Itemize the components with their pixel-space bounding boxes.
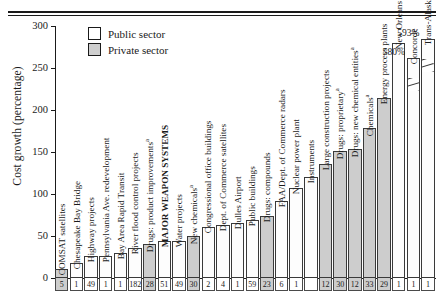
bar-category-label: MAJOR WEAPON SYSTEMS — [160, 125, 169, 247]
sample-count-cell: 1 — [231, 278, 244, 291]
bar-category-label: Chesapeake Bay Bridge — [72, 181, 81, 269]
sample-count-cell: 1 — [407, 278, 420, 291]
bar — [246, 220, 259, 278]
sample-count-row: 514911182285149302415923611230123329111 — [55, 278, 436, 291]
bar-category-label: New chemicalsa — [188, 185, 199, 244]
sample-count-cell: 49 — [84, 278, 97, 291]
axis-break-icon — [422, 59, 433, 72]
bar — [319, 164, 332, 278]
sample-count-cell: 33 — [363, 278, 376, 291]
sample-count-cell: 49 — [172, 278, 185, 291]
bar — [377, 98, 390, 278]
bar-category-label: COMSAT satellites — [58, 203, 67, 275]
sample-count-cell: 1 — [289, 278, 302, 291]
sample-count-cell: 29 — [377, 278, 390, 291]
bar-category-label: Chemicalsa — [363, 95, 374, 137]
bar — [202, 227, 215, 278]
y-tick-label: 50 — [22, 231, 48, 242]
sample-count-cell: 1 — [392, 278, 405, 291]
bar-category-label: Trans-Alaska Pipeline — [424, 0, 433, 45]
bar-value-label: 580% — [383, 47, 405, 57]
sample-count-cell: 1 — [421, 278, 434, 291]
y-tick-label: 300 — [22, 21, 48, 32]
bar — [407, 58, 420, 278]
footnote-marker: a — [348, 47, 355, 50]
bar — [304, 177, 317, 278]
sample-count-cell: 51 — [158, 278, 171, 291]
sample-count-cell: 30 — [187, 278, 200, 291]
sample-count-cell: 1 — [70, 278, 83, 291]
bar — [421, 39, 434, 278]
bar-category-label: Water projects — [175, 194, 184, 247]
sample-count-cell: 5 — [55, 278, 68, 291]
top-rule — [8, 11, 436, 13]
sample-count-cell: 4 — [216, 278, 229, 291]
bar-category-label: New Orleans Superdome — [395, 0, 404, 49]
bar-category-label: Dulles Airport — [234, 176, 243, 229]
bar-category-label: Energy process plants — [380, 24, 389, 104]
bar-category-label: River flood control projects — [131, 152, 140, 254]
sample-count-cell: 23 — [260, 278, 273, 291]
chart-figure: Cost growth (percentage) 050100150200250… — [0, 0, 443, 307]
bar-category-label: Instruments — [307, 140, 316, 183]
sample-count-cell: 6 — [275, 278, 288, 291]
bar — [333, 151, 346, 278]
axis-break-icon — [408, 78, 419, 91]
bar-category-label: Drugs: compounds — [263, 152, 272, 222]
bar-category-label: Drugs: product improvementsa — [144, 139, 155, 252]
bar-category-label: Drugs: new chemical entitiesa — [349, 47, 360, 157]
sample-count-cell: 2 — [202, 278, 215, 291]
sample-count-cell: 28 — [143, 278, 156, 291]
bar — [260, 216, 273, 278]
sample-count-cell — [304, 278, 317, 291]
bar-category-label: Pennsylvania Ave. redevelopment — [102, 138, 111, 263]
bar — [231, 223, 244, 278]
sample-count-cell: 1 — [99, 278, 112, 291]
bar-category-label: Highway projects — [87, 197, 96, 262]
bar-value-label: 593% — [397, 28, 419, 38]
footnote-marker: a — [333, 88, 340, 91]
sample-count-cell: 12 — [348, 278, 361, 291]
sample-count-cell: 1 — [114, 278, 127, 291]
y-tick-label: 0 — [22, 273, 48, 284]
bar-category-label: Nuclear power plant — [292, 119, 301, 194]
footnote-marker: a — [187, 185, 194, 188]
sample-count-cell: 30 — [333, 278, 346, 291]
bar-category-label: Public buildings — [248, 166, 257, 226]
top-rule-thin — [8, 15, 436, 16]
footnote-marker: a — [362, 95, 369, 98]
bar-category-label: Congressional office buildings — [204, 120, 213, 233]
y-tick-label: 100 — [22, 189, 48, 200]
plot-area: COMSAT satellitesChesapeake Bay BridgeHi… — [55, 26, 436, 278]
bar-category-label: FAA/Dept. of Commerce radars — [278, 89, 287, 207]
bar — [275, 201, 288, 278]
sample-count-cell: 182 — [128, 278, 141, 291]
bar — [348, 149, 361, 278]
bar — [363, 128, 376, 278]
bar — [392, 43, 405, 278]
bar-category-label: Drugs: proprietarya — [334, 88, 345, 159]
bar-category-label: Dept. of Commerce satellites — [219, 124, 228, 231]
bar — [289, 188, 302, 278]
y-tick-label: 150 — [22, 147, 48, 158]
bar-category-label: Bay Area Rapid Transit — [116, 172, 125, 259]
y-tick-label: 250 — [22, 63, 48, 74]
bar-category-label: Large construction projects — [322, 70, 331, 170]
sample-count-cell: 12 — [319, 278, 332, 291]
bar — [216, 225, 229, 278]
footnote-marker: a — [143, 139, 150, 142]
sample-count-cell: 59 — [246, 278, 259, 291]
y-tick-label: 200 — [22, 105, 48, 116]
